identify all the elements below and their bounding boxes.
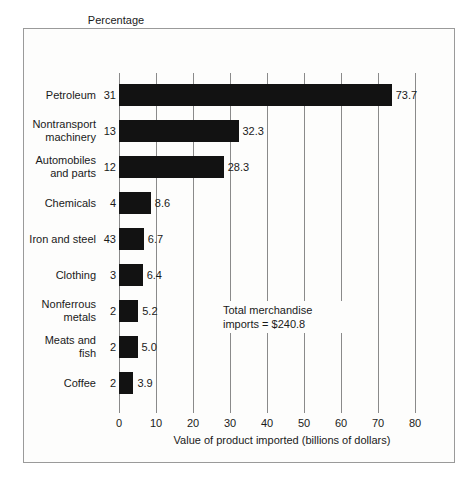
bar [119,120,239,142]
bar-value-label: 5.0 [138,329,157,365]
bar-value-label: 28.3 [224,149,249,185]
percentage-value: 43 [98,221,116,257]
bar [119,156,224,178]
x-axis-title-text: Value of product imported (billions of d… [174,434,391,446]
bar-value-label: 8.6 [151,185,170,221]
bar [119,264,143,286]
bar [119,228,144,250]
category-label: Chemicals [24,185,96,221]
percentage-value: 12 [98,149,116,185]
percentage-value: 13 [98,113,116,149]
category-label-line: machinery [45,131,96,144]
bar-row: Chemicals48.6 [24,185,456,221]
category-label: Automobilesand parts [24,149,96,185]
total-imports-annotation: Total merchandise imports = $240.8 [220,301,352,333]
category-label-line: Chemicals [45,197,96,210]
percentage-value: 3 [98,257,116,293]
category-label-line: Iron and steel [29,233,96,246]
bar-value-label: 6.4 [143,257,162,293]
category-label-line: Clothing [56,269,96,282]
x-tick-label-0: 0 [104,417,134,429]
percentage-value: 2 [98,365,116,401]
bar-value-label: 5.2 [138,293,157,329]
category-label-line: Coffee [64,377,96,390]
bar-row: Iron and steel436.7 [24,221,456,257]
bar [119,300,138,322]
x-tick-label-10: 10 [141,417,171,429]
category-label-line: Automobiles [35,154,96,167]
percentage-value: 2 [98,329,116,365]
category-label: Nontransportmachinery [24,113,96,149]
bar-row: Meats andfish25.0 [24,329,456,365]
category-label-line: metals [64,311,96,324]
category-label: Petroleum [24,77,96,113]
category-label: Coffee [24,365,96,401]
header-caption-line-1: Percentage [56,13,176,27]
annotation-line-1: Total merchandise [223,303,349,317]
category-label-line: Meats and [45,334,96,347]
bar [119,336,138,358]
percentage-value: 4 [98,185,116,221]
category-label-line: Nonferrous [42,298,96,311]
bar [119,192,151,214]
x-tick-label-70: 70 [363,417,393,429]
bar-row: Petroleum3173.7 [24,77,456,113]
bar-value-label: 73.7 [392,77,417,113]
bar-row: Clothing36.4 [24,257,456,293]
x-tick-label-30: 30 [215,417,245,429]
category-label-line: Nontransport [32,118,96,131]
x-tick-label-80: 80 [400,417,430,429]
percentage-value: 2 [98,293,116,329]
annotation-line-2: imports = $240.8 [223,317,349,331]
category-label: Nonferrousmetals [24,293,96,329]
bar [119,372,133,394]
bar-value-label: 6.7 [144,221,163,257]
chart-figure: Percentage of imports 01020304050607080 … [0,0,472,487]
x-tick-label-40: 40 [252,417,282,429]
percentage-value: 31 [98,77,116,113]
bar [119,84,392,106]
category-label: Meats andfish [24,329,96,365]
bar-row: Coffee23.9 [24,365,456,401]
x-tick-label-20: 20 [178,417,208,429]
x-axis-title: Value of product imported (billions of d… [24,434,456,446]
bar-row: Automobilesand parts1228.3 [24,149,456,185]
bar-row: Nontransportmachinery1332.3 [24,113,456,149]
chart-frame: 01020304050607080 Petroleum3173.7Nontran… [23,28,455,463]
bar-value-label: 3.9 [133,365,152,401]
category-label: Clothing [24,257,96,293]
bar-value-label: 32.3 [239,113,264,149]
x-tick-label-50: 50 [289,417,319,429]
category-label-line: Petroleum [46,89,96,102]
category-label-line: and parts [50,167,96,180]
x-tick-label-60: 60 [326,417,356,429]
category-label-line: fish [79,347,96,360]
category-label: Iron and steel [24,221,96,257]
